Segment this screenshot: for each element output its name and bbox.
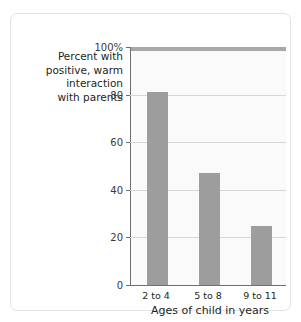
x-axis-line [130,285,286,286]
y-tick-mark [126,47,130,48]
x-axis-title: Ages of child in years [130,304,290,317]
y-tick-mark [126,95,130,96]
y-tick-mark [126,237,130,238]
x-axis-tick-label: 2 to 4 [142,290,170,301]
bars [131,51,286,285]
y-axis-tick-label: 100% [94,42,123,53]
y-axis-tick-label: 0 [117,280,123,291]
y-tick-mark [126,190,130,191]
chart-card: Percent with positive, warm interaction … [10,13,291,311]
y-axis-tick-label: 20 [110,232,123,243]
bar [199,173,220,285]
cut-off-content-sliver [0,0,301,7]
bar-chart: 020406080100% 2 to 45 to 89 to 11 [130,34,286,286]
y-axis-tick-label: 60 [110,137,123,148]
bar [147,92,168,285]
y-tick-mark [126,285,130,286]
bar [251,226,272,286]
y-axis-tick-label: 80 [110,89,123,100]
y-axis-tick-label: 40 [110,184,123,195]
x-axis-tick-label: 9 to 11 [243,290,277,301]
y-axis-title-line-2: positive, warm [15,64,123,78]
y-tick-mark [126,142,130,143]
x-axis-tick-label: 5 to 8 [194,290,222,301]
y-axis-title-line-3: interaction [15,77,123,91]
y-axis-title: Percent with positive, warm interaction … [15,50,123,104]
y-axis-title-line-4: with parents [15,91,123,105]
